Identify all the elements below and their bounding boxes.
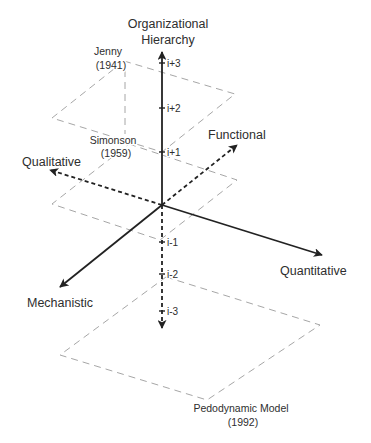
plane-label-name: Pedodynamic Model (193, 402, 288, 414)
tick-label: i+1 (167, 147, 181, 158)
quantitative-axis-label: Quantitative (280, 264, 347, 278)
vertical-axis-title-line2: Hierarchy (141, 33, 195, 47)
conceptual-model-diagram: i+3 i+2 i+1 i-1 i-2 i-3 Organizational H… (0, 0, 371, 443)
axis-quantitative (162, 205, 322, 255)
plane-label-year: (1992) (228, 416, 258, 428)
tick-label: i-3 (167, 306, 179, 317)
plane-label-year: (1959) (101, 147, 131, 159)
tick-label: i-2 (167, 269, 179, 280)
mechanistic-axis-label: Mechanistic (27, 296, 93, 310)
tick-label: i+3 (167, 58, 181, 69)
plane-label-name: Simonson (90, 134, 137, 146)
axis-qualitative (50, 170, 162, 205)
axis-mechanistic (60, 205, 162, 287)
plane-label-year: (1941) (96, 59, 126, 71)
tick-label: i+2 (167, 103, 181, 114)
tick-label: i-1 (167, 237, 179, 248)
plane-label-name: Jenny (94, 45, 123, 57)
qualitative-axis-label: Qualitative (22, 155, 81, 169)
vertical-axis-title-line1: Organizational (128, 17, 209, 31)
plane-pedodynamic-model (60, 277, 320, 400)
functional-axis-label: Functional (208, 128, 266, 142)
